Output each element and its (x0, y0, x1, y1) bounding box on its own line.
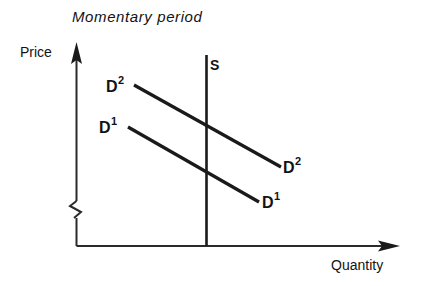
y-axis-break-symbol (70, 201, 81, 218)
demand-d1-left-label-superscript: 1 (111, 115, 117, 127)
supply-curve-label: S (210, 57, 219, 73)
y-axis-label: Price (20, 44, 52, 60)
demand-curve-d2-right-label: D 2 (283, 155, 301, 176)
chart-title: Momentary period (72, 8, 203, 25)
momentary-period-diagram: Momentary period Price Quantity S D 2 (0, 0, 425, 286)
demand-d2-right-label-base: D (283, 159, 295, 176)
demand-d1-right-label-superscript: 1 (274, 190, 280, 202)
figure-canvas: Momentary period Price Quantity S D 2 (0, 0, 425, 286)
demand-curve-d1-left-label: D 1 (99, 115, 117, 136)
demand-curve-d1 (128, 127, 259, 202)
demand-d2-left-label-base: D (106, 78, 118, 95)
demand-curve-d2-left-label: D 2 (106, 74, 124, 95)
demand-d1-right-label-base: D (262, 194, 274, 211)
demand-d2-right-label-superscript: 2 (295, 155, 301, 167)
demand-d2-left-label-superscript: 2 (118, 74, 124, 86)
demand-curve-d1-right-label: D 1 (262, 190, 280, 211)
x-axis-label: Quantity (331, 257, 383, 273)
demand-d1-left-label-base: D (99, 119, 111, 136)
